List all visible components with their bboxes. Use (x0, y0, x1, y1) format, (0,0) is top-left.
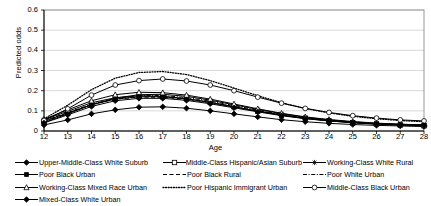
y-tick-label: 0.3 (12, 66, 38, 75)
x-tick-label: 19 (199, 132, 221, 141)
data-marker (137, 78, 142, 83)
legend-key-solid-diamond (14, 194, 39, 205)
x-tick-label: 25 (342, 132, 364, 141)
legend-item: Middle-Class Black Urban (302, 181, 431, 194)
legend-label: Poor Black Urban (39, 169, 95, 180)
data-marker (232, 88, 237, 93)
data-marker (25, 173, 29, 177)
legend-key-dash-dot (302, 169, 327, 180)
legend-label: Poor Hispanic Immigrant Urban (187, 182, 287, 193)
data-marker (89, 93, 94, 98)
legend-item: Poor White Urban (302, 169, 431, 182)
data-marker (184, 79, 189, 84)
legend-key-solid-circle (302, 182, 327, 193)
x-tick-label: 14 (81, 132, 103, 141)
data-marker (208, 83, 213, 88)
legend-label: Poor White Urban (327, 169, 384, 180)
legend-key-dotted (162, 182, 187, 193)
legend-key-solid-square-small (14, 169, 39, 180)
x-tick-label: 16 (128, 132, 150, 141)
y-tick-label: 0.1 (12, 106, 38, 115)
data-marker (112, 107, 118, 113)
y-tick-label: 0.6 (12, 5, 38, 14)
x-tick-label: 22 (271, 132, 293, 141)
data-marker (207, 108, 213, 114)
x-tick-label: 17 (152, 132, 174, 141)
legend-item: Working-Class White Rural (302, 156, 431, 169)
data-marker (184, 105, 190, 111)
legend-item: Mixed-Class White Urban (14, 194, 162, 206)
predicted-odds-line-chart: Predicted odds Age 00.10.20.30.40.50.6 1… (0, 0, 431, 205)
legend-label: Middle-Class Black Urban (327, 182, 410, 193)
x-tick-label: 27 (389, 132, 411, 141)
x-tick-label: 24 (318, 132, 340, 141)
x-tick-label: 15 (104, 132, 126, 141)
data-marker (312, 185, 317, 190)
legend-label: Mixed-Class White Urban (39, 194, 120, 205)
legend-label: Working-Class Mixed Race Urban (39, 182, 147, 193)
legend-label: Poor Black Rural (187, 169, 241, 180)
x-tick-label: 18 (176, 132, 198, 141)
data-marker (327, 110, 332, 115)
legend-label: Upper-Middle-Class White Suburb (39, 157, 148, 168)
data-marker (113, 83, 118, 88)
legend-column-2: Middle-Class Hispanic/Asian SuburbPoor B… (162, 156, 302, 194)
data-marker (279, 101, 284, 106)
legend-key-dashed (162, 169, 187, 180)
legend-label: Working-Class White Rural (327, 157, 413, 168)
data-marker (24, 159, 30, 165)
legend-item: Poor Hispanic Immigrant Urban (162, 181, 302, 194)
legend-key-solid-star (302, 157, 327, 168)
legend-item: Upper-Middle-Class White Suburb (14, 156, 162, 169)
data-marker (24, 197, 30, 203)
legend-key-solid-square (162, 157, 186, 168)
x-tick-label: 28 (413, 132, 431, 141)
x-tick-label: 23 (294, 132, 316, 141)
x-tick-label: 12 (33, 132, 55, 141)
legend-column-1: Upper-Middle-Class White SuburbPoor Blac… (14, 156, 162, 205)
legend-item: Middle-Class Hispanic/Asian Suburb (162, 156, 302, 169)
data-marker (136, 104, 142, 110)
legend-item: Poor Black Rural (162, 169, 302, 182)
data-marker (255, 95, 260, 100)
x-tick-label: 21 (247, 132, 269, 141)
legend-column-3: Working-Class White RuralPoor White Urba… (302, 156, 431, 194)
data-marker (172, 160, 176, 164)
legend-item: Poor Black Urban (14, 169, 162, 182)
data-marker (89, 111, 95, 117)
legend-label: Middle-Class Hispanic/Asian Suburb (186, 157, 302, 168)
x-tick-label: 13 (57, 132, 79, 141)
y-tick-label: 0.2 (12, 86, 38, 95)
x-tick-label: 20 (223, 132, 245, 141)
data-marker (350, 113, 355, 118)
legend-key-solid-diamond (14, 157, 39, 168)
data-marker (374, 116, 379, 121)
data-marker (160, 77, 165, 82)
data-marker (160, 104, 166, 110)
x-tick-label: 26 (366, 132, 388, 141)
y-tick-label: 0.4 (12, 45, 38, 54)
data-marker (65, 106, 70, 111)
data-marker (303, 106, 308, 111)
data-marker (231, 111, 237, 117)
legend-item: Working-Class Mixed Race Urban (14, 181, 162, 194)
legend-key-solid-triangle (14, 182, 39, 193)
y-tick-label: 0.5 (12, 25, 38, 34)
